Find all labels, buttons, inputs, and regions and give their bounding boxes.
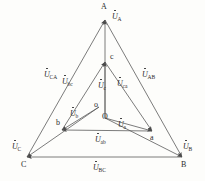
phasor-label-Uab: Uab xyxy=(95,136,106,144)
point-label-o: o xyxy=(94,101,98,109)
point-label-O: O xyxy=(102,113,108,121)
line-ab xyxy=(62,130,152,131)
line-CA xyxy=(27,20,105,157)
phasor-label-Ubc: Ubc xyxy=(62,78,73,86)
phasor-label-Ub: Ub xyxy=(70,110,79,118)
phasor-label-Uc: Uc xyxy=(98,82,106,90)
point-label-b: b xyxy=(56,119,60,127)
point-label-c: c xyxy=(110,53,114,61)
phasor-OC xyxy=(27,107,99,157)
point-label-a: a xyxy=(150,134,154,142)
phasor-label-UC: UC xyxy=(12,143,21,151)
phasor-OB xyxy=(105,118,182,157)
line-AB xyxy=(105,20,182,157)
point-label-A: A xyxy=(101,3,107,11)
phasor-label-UB: UB xyxy=(183,143,192,151)
phasor-label-Ua: Ua xyxy=(118,121,126,129)
point-label-C: C xyxy=(21,161,26,169)
point-label-B: B xyxy=(181,161,186,169)
line-bc xyxy=(62,62,105,130)
phasor-label-UA: UA xyxy=(112,13,122,21)
phasor-label-Uca: Uca xyxy=(117,80,128,88)
phasor-diagram-canvas: ABCabcoOUAUBUCUABUBCUCAUaUbUcUabUbcUca xyxy=(0,0,205,181)
phasor-label-UAB: UAB xyxy=(142,71,155,79)
phasor-label-UBC: UBC xyxy=(93,164,106,172)
phasor-label-UCA: UCA xyxy=(44,71,57,79)
